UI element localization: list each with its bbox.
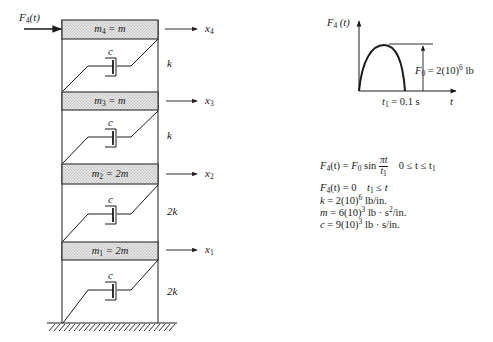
disp-subscript: 2 <box>210 172 214 181</box>
eq-func: sin <box>361 160 379 171</box>
spring-label-story-4: k <box>167 58 172 69</box>
eq-unit: lb/in. <box>362 195 387 206</box>
mass-label-m1: m1 = 2m <box>62 246 158 258</box>
damper-label-story-1: c <box>108 270 113 281</box>
mass-value: = 2m <box>106 168 129 179</box>
amp-value: = 2(10) <box>428 65 459 76</box>
mass-symbol: m <box>94 95 102 106</box>
force-label: F4(t) <box>19 12 40 25</box>
disp-subscript: 1 <box>210 248 214 257</box>
equation-force-pulse: F4(t) = F0 sin πtt1 0 ≤ t ≤ t1 <box>320 156 436 177</box>
mass-label-m3: m3 = m <box>62 96 158 108</box>
mass-subscript: 1 <box>99 249 103 258</box>
amp-unit: lb <box>465 65 473 76</box>
eq-unit: lb · s <box>365 207 389 218</box>
dur-value: = 0.1 s <box>391 96 419 107</box>
eq-condition-rest: ≤ t <box>374 182 388 193</box>
displacement-label-x3: x3 <box>205 95 214 108</box>
mass-value: = 2m <box>106 245 129 256</box>
mass-subscript: 4 <box>102 27 106 36</box>
equation-stiffness: k = 2(10)6 lb/in. <box>320 194 387 207</box>
eq-text: (t) = <box>330 160 351 171</box>
eq-sym: m <box>320 207 328 218</box>
mass-label-m4: m4 = m <box>62 24 158 36</box>
dur-subscript: 1 <box>385 100 389 109</box>
eq-unit-rest: /in. <box>393 207 407 218</box>
eq-text: = 6(10) <box>328 207 362 218</box>
mass-value: = m <box>108 23 125 34</box>
mass-subscript: 2 <box>99 172 103 181</box>
eq-sub: 1 <box>432 164 436 173</box>
spring-label-story-2: 2k <box>167 206 177 217</box>
damper-label-story-2: c <box>108 194 113 205</box>
equation-mass: m = 6(10)3 lb · s2/in. <box>320 206 406 219</box>
displacement-label-x2: x2 <box>205 168 214 181</box>
plot-x-axis-label: t <box>450 96 453 107</box>
eq-condition: 0 ≤ t ≤ t <box>399 160 432 171</box>
half-sine-curve <box>359 45 405 91</box>
mass-value: = m <box>108 95 125 106</box>
ground-hatching <box>47 323 177 331</box>
displacement-label-x4: x4 <box>205 23 214 36</box>
disp-subscript: 3 <box>210 99 214 108</box>
plot-y-axis-label: F4 (t) <box>327 18 350 30</box>
damper-label-story-3: c <box>108 117 113 128</box>
eq-text: (t) = 0 <box>330 182 356 193</box>
mass-label-m2: m2 = 2m <box>62 169 158 181</box>
fraction-denominator: t1 <box>379 167 388 178</box>
force-symbol: F <box>19 11 26 23</box>
duration-label: t1 = 0.1 s <box>382 97 420 109</box>
mass-subscript: 3 <box>102 99 106 108</box>
equation-damping: c = 9(10)3 lb · s/in. <box>320 218 400 231</box>
amplitude-label: F0 = 2(10)6 lb <box>415 64 474 78</box>
damper-label-story-4: c <box>108 46 113 57</box>
spring-label-story-3: k <box>167 130 172 141</box>
pulse-plot <box>359 21 456 91</box>
eq-text: = 9(10) <box>325 219 359 230</box>
amp-subscript: 0 <box>421 69 425 78</box>
eq-unit: lb · s/in. <box>362 219 399 230</box>
y-label-arg: (t) <box>340 17 350 28</box>
mass-symbol: m <box>94 23 102 34</box>
eq-text: = 2(10) <box>325 195 359 206</box>
spring-label-story-1: 2k <box>167 286 177 297</box>
den-sub: 1 <box>383 169 387 178</box>
displacement-label-x1: x1 <box>205 244 214 257</box>
amp-exponent: 6 <box>459 63 463 72</box>
force-arg: (t) <box>29 11 39 23</box>
y-label-subscript: 4 <box>333 21 337 30</box>
disp-subscript: 4 <box>210 27 214 36</box>
eq-fraction: πtt1 <box>379 156 388 177</box>
